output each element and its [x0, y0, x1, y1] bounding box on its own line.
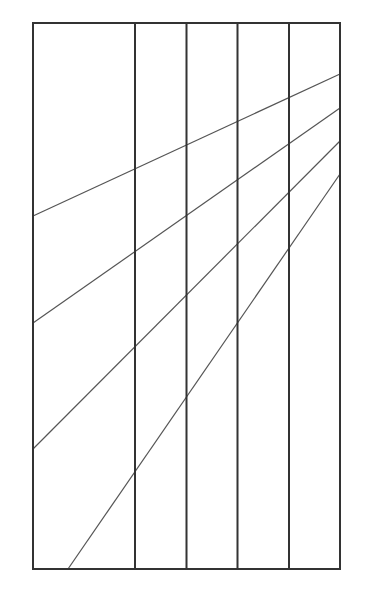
grid-diagram [0, 0, 366, 597]
vertical-dividers [135, 23, 289, 569]
diagonal-line-4 [68, 174, 340, 569]
